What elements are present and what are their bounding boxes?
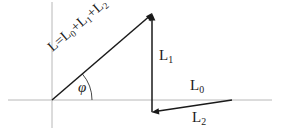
l2-label-subscript: 2 bbox=[201, 116, 206, 127]
l0-label-base: L bbox=[190, 77, 199, 93]
vector-addition-figure: L=L0+L1+L2 L1 L0 L2 φ bbox=[0, 0, 284, 133]
l1-label-base: L bbox=[159, 47, 168, 63]
l1-label-subscript: 1 bbox=[168, 54, 173, 65]
l2-vector-label: L2 bbox=[192, 110, 206, 125]
l0-label-subscript: 0 bbox=[199, 84, 204, 95]
angle-phi-label: φ bbox=[78, 80, 86, 95]
l2-label-base: L bbox=[192, 109, 201, 125]
l1-vector-label: L1 bbox=[159, 48, 173, 63]
vector-diagram-canvas bbox=[0, 0, 284, 133]
l0-vector-label: L0 bbox=[190, 78, 204, 93]
